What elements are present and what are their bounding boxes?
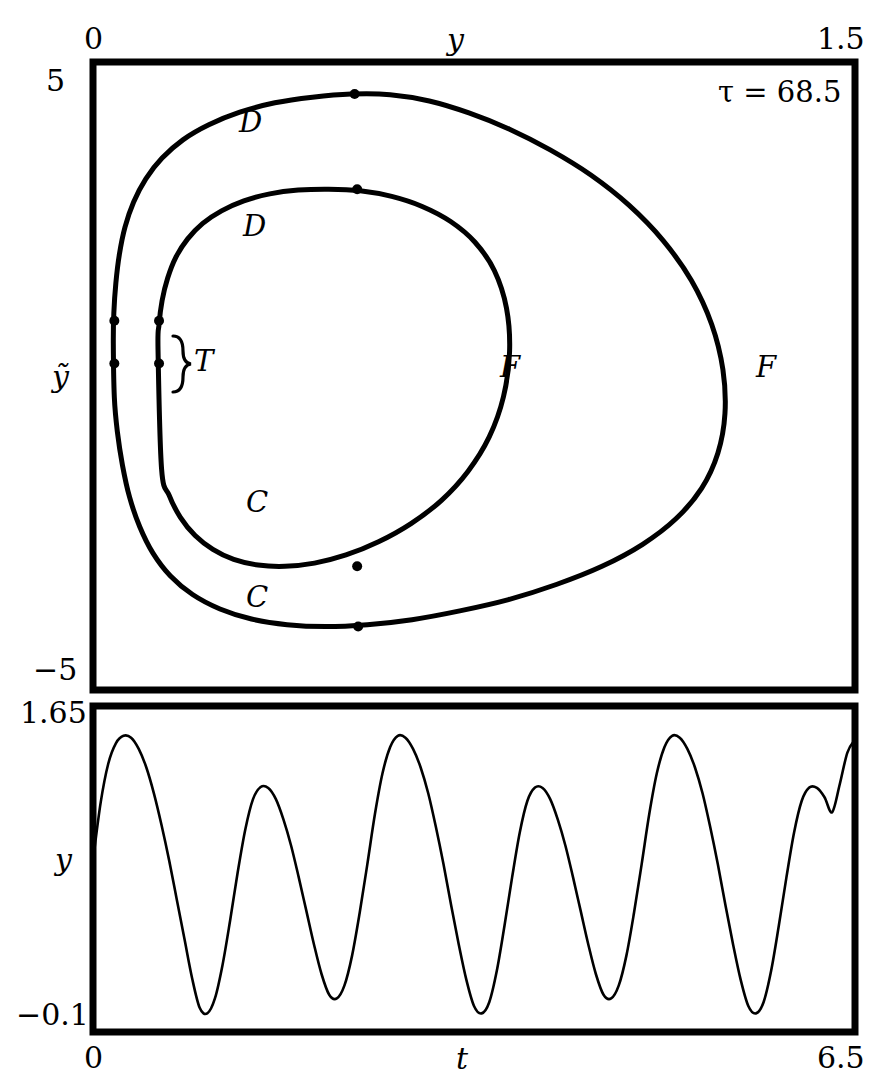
phase-marker-C-bottom (353, 622, 363, 632)
curve-label-C-inner: C (246, 488, 268, 517)
time-x-axis-label: t (456, 1044, 468, 1074)
curve-label-F-inner: F (500, 353, 520, 382)
phase-y-axis-label: ỹ (52, 362, 69, 392)
time-plot-frame (93, 706, 855, 1032)
time-x-max-label: 6.5 (817, 1043, 865, 1073)
phase-x-max-label: 1.5 (817, 24, 865, 54)
tau-annotation: τ = 68.5 (718, 78, 841, 107)
time-series-curve (93, 735, 855, 1014)
phase-marker-T-upper (109, 316, 119, 326)
phase-portrait-plot (0, 0, 894, 1091)
phase-marker-D-apex (350, 89, 360, 99)
time-y-axis-label: y (55, 845, 72, 875)
figure-root: 0 y 1.5 5 ỹ −5 τ = 68.5 D D F F C C T 1.… (0, 0, 894, 1091)
phase-x-axis-label: y (447, 25, 464, 55)
time-x-min-label: 0 (84, 1043, 103, 1073)
phase-point-markers (109, 89, 363, 632)
phase-marker-T-lower (109, 358, 119, 368)
time-y-max-label: 1.65 (20, 698, 87, 728)
curve-label-F-outer: F (756, 353, 776, 382)
phase-marker-D-apex (352, 184, 362, 194)
time-series-plot (0, 0, 894, 1091)
phase-marker-T-lower (154, 358, 164, 368)
phase-x-min-label: 0 (84, 24, 103, 54)
brace-icon (170, 334, 196, 394)
phase-y-max-label: 5 (46, 66, 65, 96)
curve-label-D-inner: D (243, 212, 266, 241)
curve-label-D-outer: D (239, 108, 262, 137)
curve-label-C-outer: C (246, 583, 268, 612)
phase-marker-T-upper (154, 316, 164, 326)
phase-y-min-label: −5 (33, 655, 77, 685)
brace-label-T: T (194, 347, 213, 376)
time-y-min-label: −0.1 (16, 1000, 89, 1030)
phase-marker-C-bottom (352, 561, 362, 571)
